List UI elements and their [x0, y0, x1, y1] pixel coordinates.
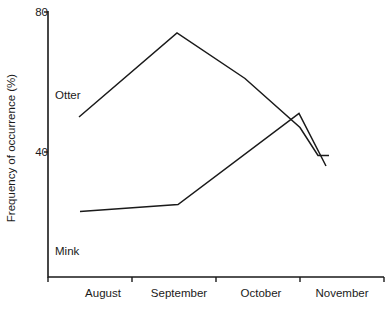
plot-area — [0, 0, 387, 317]
series-line-otter — [79, 33, 329, 156]
axis-lines — [48, 11, 384, 277]
series-line-mink — [80, 114, 326, 212]
line-chart: Frequency of occurrence (%) 80 40 August… — [0, 0, 387, 317]
